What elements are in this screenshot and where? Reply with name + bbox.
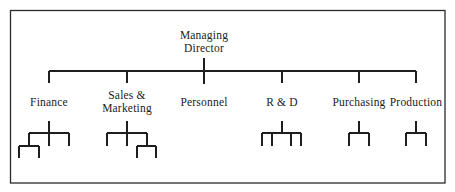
node-label-line2: Marketing [102,102,152,115]
node-label: Purchasing [332,96,385,109]
node-label: R & D [266,96,298,109]
r-and-d-subtree [262,121,301,146]
root-connector [49,58,416,84]
node-managing-director: Managing Director [180,29,228,55]
node-sales-marketing: Sales & Marketing [102,89,152,115]
node-r-and-d: R & D [266,96,298,109]
finance-subtree [19,121,69,158]
node-label-line1: Sales & [102,89,152,102]
node-purchasing: Purchasing [332,96,385,109]
node-label-line2: Director [180,42,228,55]
node-personnel: Personnel [180,96,227,109]
node-production: Production [390,96,442,109]
purchasing-subtree [349,121,369,146]
node-finance: Finance [30,96,68,109]
node-label-line1: Managing [180,29,228,42]
department-connectors [49,71,416,83]
node-label: Finance [30,96,68,109]
sales-marketing-subtree [107,121,156,158]
node-label: Production [390,96,442,109]
node-label: Personnel [180,96,227,109]
production-subtree [406,121,426,146]
